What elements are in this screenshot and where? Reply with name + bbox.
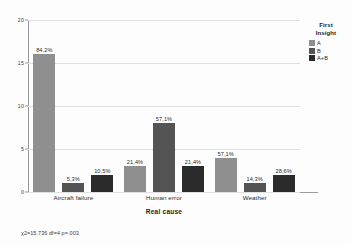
bar[interactable]	[153, 123, 175, 192]
bar-slot: 21,4%	[124, 20, 146, 192]
bar-value-label: 57,1%	[156, 116, 172, 122]
legend-item-label: A+B	[317, 55, 328, 61]
legend-item-label: A	[317, 40, 321, 46]
y-axis-tick-label: 10	[18, 103, 24, 109]
bar[interactable]	[62, 183, 84, 192]
y-axis-tick-label: 5	[21, 146, 24, 152]
plot-area: 05101520 84,2%5,3%10,5%21,4%57,1%21,4%57…	[28, 20, 300, 192]
bar-slot: 21,4%	[182, 20, 204, 192]
bar-slot: 14,3%	[244, 20, 266, 192]
bar[interactable]	[91, 175, 113, 192]
x-axis-category-label: Weather	[209, 194, 300, 201]
bar-slot: 57,1%	[215, 20, 237, 192]
legend-items: ABA+B	[303, 40, 349, 61]
bar-slot: 28,6%	[273, 20, 295, 192]
bar-slot: 84,2%	[33, 20, 55, 192]
gridline	[28, 192, 300, 193]
bar-value-label: 28,6%	[275, 168, 291, 174]
bar[interactable]	[215, 158, 237, 192]
bar-value-label: 14,3%	[246, 176, 262, 182]
bar[interactable]	[124, 166, 146, 192]
bar-group: 84,2%5,3%10,5%	[28, 20, 119, 192]
bar[interactable]	[182, 166, 204, 192]
bar-value-label: 21,4%	[127, 159, 143, 165]
bar-value-label: 10,5%	[94, 168, 110, 174]
bar-group: 21,4%57,1%21,4%	[119, 20, 210, 192]
legend-swatch-icon	[309, 40, 315, 46]
y-axis-tick-label: 20	[18, 17, 24, 23]
legend-item[interactable]: A	[309, 40, 349, 46]
bar[interactable]	[273, 175, 295, 192]
bar[interactable]	[33, 54, 55, 192]
bar-value-label: 57,1%	[217, 151, 233, 157]
x-axis-category-label: Aircraft failure	[28, 194, 119, 201]
bar[interactable]	[244, 183, 266, 192]
y-axis-tick-label: 0	[21, 189, 24, 195]
y-axis-tick-label: 15	[18, 60, 24, 66]
legend-item[interactable]: A+B	[309, 55, 349, 61]
x-axis-title: Real cause	[28, 208, 300, 215]
chart-container: 05101520 84,2%5,3%10,5%21,4%57,1%21,4%57…	[0, 0, 351, 246]
bar-value-label: 5,3%	[67, 176, 80, 182]
legend: First Insight ABA+B	[303, 22, 349, 63]
bar-slot: 10,5%	[91, 20, 113, 192]
bar-value-label: 21,4%	[185, 159, 201, 165]
chi-square-footnote: χ2=15.736 df=4 p=.003	[21, 230, 79, 236]
legend-swatch-icon	[309, 48, 315, 54]
bar-value-label: 84,2%	[36, 47, 52, 53]
legend-swatch-icon	[309, 55, 315, 61]
bar-slot: 57,1%	[153, 20, 175, 192]
legend-item[interactable]: B	[309, 48, 349, 54]
bar-groups: 84,2%5,3%10,5%21,4%57,1%21,4%57,1%14,3%2…	[28, 20, 300, 192]
legend-item-label: B	[317, 48, 321, 54]
bar-slot: 5,3%	[62, 20, 84, 192]
x-axis-category-label: Human error	[119, 194, 210, 201]
legend-title-line2: Insight	[303, 30, 349, 38]
legend-title: First Insight	[303, 22, 349, 37]
x-axis-category-labels: Aircraft failureHuman errorWeather	[28, 194, 300, 201]
legend-title-line1: First	[303, 22, 349, 30]
bar-group: 57,1%14,3%28,6%	[209, 20, 300, 192]
